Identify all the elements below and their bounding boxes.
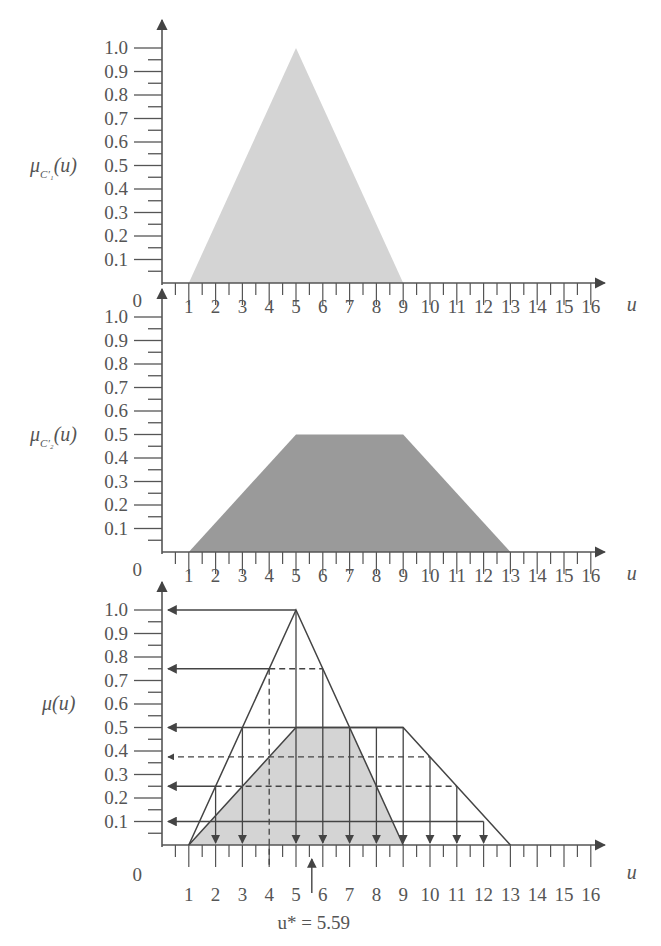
- y-tick-label: 0.3: [104, 764, 128, 785]
- x-tick-label: 15: [555, 296, 574, 317]
- x-axis-label: u: [627, 562, 637, 584]
- x-tick-label: 16: [581, 565, 600, 586]
- x-tick-label: 5: [291, 884, 301, 905]
- y-tick-label: 0.3: [104, 471, 128, 492]
- x-tick-label: 4: [264, 296, 274, 317]
- y-tick-label: 0.4: [104, 740, 128, 761]
- y-tick-label: 0.1: [104, 249, 128, 270]
- x-tick-label: 2: [211, 296, 221, 317]
- x-tick-label: 6: [318, 565, 328, 586]
- origin-label: 0: [133, 559, 143, 580]
- y-tick-label: 0.1: [104, 811, 128, 832]
- u-star-label: u* = 5.59: [278, 912, 350, 933]
- x-tick-label: 14: [528, 565, 548, 586]
- y-tick-label: 0.8: [104, 353, 128, 374]
- x-tick-label: 6: [318, 296, 328, 317]
- x-tick-label: 7: [345, 565, 355, 586]
- y-tick-label: 0.2: [104, 494, 128, 515]
- y-tick-label: 0.8: [104, 646, 128, 667]
- x-tick-label: 1: [184, 884, 194, 905]
- x-tick-label: 7: [345, 296, 355, 317]
- y-axis-label: μC′₁(u): [29, 154, 77, 180]
- x-tick-label: 9: [398, 296, 408, 317]
- y-tick-label: 0.7: [104, 670, 128, 691]
- x-tick-label: 5: [291, 565, 301, 586]
- x-tick-label: 8: [372, 565, 382, 586]
- x-tick-label: 9: [398, 565, 408, 586]
- panel-middle: 0.10.20.30.40.50.60.70.80.91.01234567891…: [29, 289, 637, 586]
- y-tick-label: 0.9: [104, 330, 128, 351]
- x-tick-label: 2: [211, 565, 221, 586]
- x-tick-label: 10: [421, 884, 440, 905]
- y-tick-label: 0.5: [104, 424, 128, 445]
- x-tick-label: 11: [448, 565, 466, 586]
- y-tick-label: 0.9: [104, 61, 128, 82]
- x-tick-label: 12: [474, 565, 493, 586]
- panel-bottom: 0.10.20.30.40.50.60.70.80.91.01234567891…: [41, 582, 637, 933]
- x-tick-label: 12: [474, 296, 493, 317]
- y-tick-label: 0.2: [104, 787, 128, 808]
- y-tick-label: 0.4: [104, 178, 128, 199]
- x-tick-label: 13: [501, 565, 520, 586]
- x-tick-label: 11: [448, 884, 466, 905]
- x-tick-label: 8: [372, 296, 382, 317]
- x-tick-label: 3: [238, 884, 248, 905]
- y-tick-label: 1.0: [104, 37, 128, 58]
- y-tick-label: 0.4: [104, 447, 128, 468]
- x-tick-label: 1: [184, 296, 194, 317]
- y-tick-label: 0.7: [104, 377, 128, 398]
- y-tick-label: 0.6: [104, 400, 128, 421]
- x-axis-label: u: [627, 861, 637, 883]
- x-tick-label: 11: [448, 296, 466, 317]
- x-tick-label: 14: [528, 296, 548, 317]
- x-tick-label: 9: [398, 884, 408, 905]
- x-tick-label: 1: [184, 565, 194, 586]
- x-tick-label: 8: [372, 884, 382, 905]
- y-tick-label: 1.0: [104, 306, 128, 327]
- x-tick-label: 5: [291, 296, 301, 317]
- x-tick-label: 15: [555, 884, 574, 905]
- y-axis-label: μC′₂(u): [29, 423, 77, 449]
- y-tick-label: 0.2: [104, 225, 128, 246]
- x-tick-label: 13: [501, 296, 520, 317]
- x-tick-label: 12: [474, 884, 493, 905]
- x-tick-label: 3: [238, 296, 248, 317]
- panel-top: 0.10.20.30.40.50.60.70.80.91.01234567891…: [29, 20, 637, 317]
- x-tick-label: 14: [528, 884, 548, 905]
- x-tick-label: 6: [318, 884, 328, 905]
- x-tick-label: 2: [211, 884, 221, 905]
- x-tick-label: 16: [581, 884, 600, 905]
- membership-area: [189, 48, 403, 283]
- x-tick-label: 4: [264, 884, 274, 905]
- origin-label: 0: [133, 290, 143, 311]
- x-tick-label: 7: [345, 884, 355, 905]
- x-tick-label: 3: [238, 565, 248, 586]
- y-tick-label: 0.1: [104, 518, 128, 539]
- y-tick-label: 0.9: [104, 623, 128, 644]
- x-tick-label: 13: [501, 884, 520, 905]
- x-tick-label: 10: [421, 565, 440, 586]
- y-tick-label: 0.5: [104, 717, 128, 738]
- y-tick-label: 0.7: [104, 108, 128, 129]
- y-tick-label: 0.8: [104, 84, 128, 105]
- membership-area: [189, 435, 511, 553]
- y-tick-label: 1.0: [104, 599, 128, 620]
- y-tick-label: 0.6: [104, 693, 128, 714]
- x-tick-label: 16: [581, 296, 600, 317]
- x-tick-label: 15: [555, 565, 574, 586]
- y-axis-label: μ(u): [41, 692, 76, 715]
- origin-label: 0: [133, 864, 143, 885]
- fuzzy-defuzzification-chart: 0.10.20.30.40.50.60.70.80.91.01234567891…: [0, 0, 661, 946]
- y-tick-label: 0.5: [104, 155, 128, 176]
- x-tick-label: 10: [421, 296, 440, 317]
- x-axis-label: u: [627, 293, 637, 315]
- x-tick-label: 4: [264, 565, 274, 586]
- y-tick-label: 0.3: [104, 202, 128, 223]
- y-tick-label: 0.6: [104, 131, 128, 152]
